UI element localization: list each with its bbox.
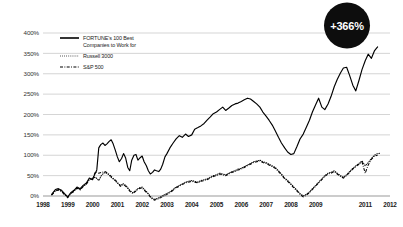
x-axis-label: 2000 <box>86 201 100 208</box>
y-axis-label: 400% <box>24 29 40 36</box>
y-axis-label: 150% <box>24 131 40 138</box>
x-axis-label: 2001 <box>111 201 125 208</box>
y-axis-tick-labels: 0%50%100%150%200%250%300%350%400% <box>24 29 40 199</box>
x-axis-tick-labels: 1998199920002001200220032004200520062007… <box>36 201 397 208</box>
legend-label-s-p-500: S&P 500 <box>83 64 104 70</box>
final-return-badge: +366% <box>324 3 370 49</box>
performance-line-chart: 0%50%100%150%200%250%300%350%400% 199819… <box>0 0 403 227</box>
legend-label-fortune-s-100-best-line2: Companies to Work for <box>83 42 136 48</box>
y-axis-label: 50% <box>27 172 40 179</box>
legend-label-fortune-s-100-best: FORTUNE's 100 Best <box>83 35 134 41</box>
x-axis-label: 2005 <box>210 201 224 208</box>
x-axis-label: 2007 <box>259 201 273 208</box>
legend-label-russell-3000: Russell 3000 <box>83 53 113 59</box>
x-axis-label: 2004 <box>185 201 199 208</box>
y-axis-label: 0% <box>30 192 39 199</box>
x-axis-label: 1998 <box>36 201 50 208</box>
chart-container: 0%50%100%150%200%250%300%350%400% 199819… <box>0 0 403 227</box>
x-axis-label: 1999 <box>61 201 75 208</box>
x-axis-label: 2011 <box>359 201 373 208</box>
x-axis-label: 2006 <box>235 201 249 208</box>
x-axis-label: 2008 <box>284 201 298 208</box>
x-axis-label: 2002 <box>135 201 149 208</box>
y-axis-label: 300% <box>24 70 40 77</box>
x-axis-label: 2012 <box>383 201 397 208</box>
series-line-russell-3000 <box>52 153 381 199</box>
x-axis-label: 2009 <box>309 201 323 208</box>
y-axis-label: 200% <box>24 111 40 118</box>
badge-label: +366% <box>330 20 364 32</box>
y-axis-label: 100% <box>24 151 40 158</box>
chart-legend: FORTUNE's 100 BestCompanies to Work forR… <box>60 35 136 70</box>
y-axis-label: 350% <box>24 50 40 57</box>
y-axis-label: 250% <box>24 90 40 97</box>
x-axis-label: 2003 <box>160 201 174 208</box>
